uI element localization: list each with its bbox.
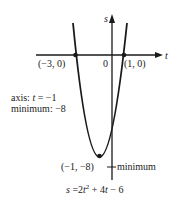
s-axis-label: s <box>104 14 108 24</box>
minimum-annotation: minimum: −8 <box>11 104 66 114</box>
vertex-point <box>97 154 102 159</box>
t-axis-label: t <box>165 51 168 61</box>
left-intercept-label: (−3, 0) <box>38 59 65 69</box>
parabola-curve <box>73 23 127 157</box>
right-intercept-point <box>122 53 127 58</box>
vertex-minimum-label: minimum <box>117 162 156 172</box>
left-intercept-point <box>73 53 78 58</box>
t-axis-arrow-icon <box>155 52 163 58</box>
axis-annotation: axis: t = −1 <box>11 93 56 103</box>
s-axis-arrow-icon <box>109 14 115 23</box>
equation-tail: − 6 <box>108 184 124 195</box>
axis-value: = −1 <box>35 92 56 103</box>
right-intercept-label: (1, 0) <box>124 59 146 69</box>
origin-label: 0 <box>103 59 108 69</box>
axis-prefix: axis: <box>11 92 32 103</box>
vertex-label: (−1, −8) <box>61 162 94 172</box>
equation-plus: + 4 <box>89 184 105 195</box>
equation-mid: =2 <box>70 184 83 195</box>
equation: s =2t2 + 4t − 6 <box>66 182 123 195</box>
